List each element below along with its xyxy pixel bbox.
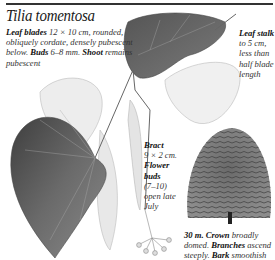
bract-label: Bract (144, 140, 164, 150)
bract-illustration (128, 100, 142, 210)
bark-text: smoothish (232, 250, 267, 260)
bract-text: 9 × 2 cm. (144, 150, 177, 160)
bark-label: Bark (212, 250, 230, 260)
flower-buds-label: Flower buds (144, 160, 169, 180)
shoot-label: Shoot (82, 47, 103, 57)
leaf-stalk-caption: Leaf stalk to 5 cm, less than half blade… (239, 28, 275, 79)
tree-silhouette-illustration (187, 128, 271, 224)
tree-height: 30 m. (184, 230, 204, 240)
species-description: Leaf blades 12 × 10 cm, rounded, oblique… (6, 27, 146, 68)
flower-buds-illustration (137, 210, 172, 255)
tree-caption: 30 m. Crown broadly domed. Branches asce… (184, 230, 275, 260)
leaf-blades-label: Leaf blades (6, 27, 47, 37)
bract-caption: Bract 9 × 2 cm. Flower buds (7–10) open … (144, 140, 184, 211)
branches-label: Branches (211, 240, 245, 250)
buds-text: 6–8 mm. (51, 47, 81, 57)
buds-label: Buds (30, 47, 48, 57)
crown-label: Crown (206, 230, 230, 240)
flower-buds-text: (7–10) open late July (144, 181, 176, 211)
leaf-stalk-text: to 5 cm, less than half blade length (239, 38, 274, 79)
leaf-stalk-label: Leaf stalk (239, 28, 274, 38)
